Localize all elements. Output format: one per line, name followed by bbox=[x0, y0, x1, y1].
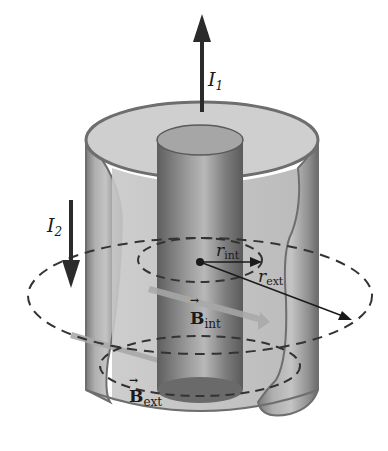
coaxial-cable-diagram: I1 I2 rint rext → Bint → Bext bbox=[0, 0, 388, 451]
current-i2-arrow bbox=[62, 200, 80, 288]
b-int-vector-arrow: → bbox=[190, 294, 199, 307]
i2-label: I2 bbox=[46, 214, 62, 239]
current-i1-arrow bbox=[193, 14, 211, 112]
i1-label: I1 bbox=[207, 68, 223, 93]
